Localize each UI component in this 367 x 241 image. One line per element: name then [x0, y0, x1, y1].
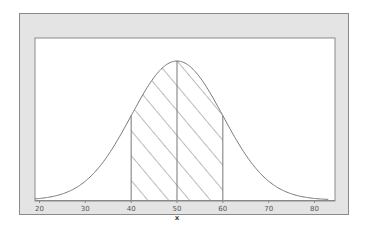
x-tick-label: 50	[173, 205, 182, 213]
x-tick-label: 20	[35, 205, 44, 213]
x-tick-label: 60	[218, 205, 227, 213]
normal-distribution-chart: 20304050607080 x	[0, 0, 367, 241]
x-tick-label: 80	[310, 205, 319, 213]
x-tick-label: 70	[264, 205, 273, 213]
x-axis-ticks: 20304050607080	[35, 200, 319, 213]
x-tick-label: 30	[81, 205, 90, 213]
x-axis-title: x	[175, 214, 180, 222]
x-tick-label: 40	[127, 205, 136, 213]
